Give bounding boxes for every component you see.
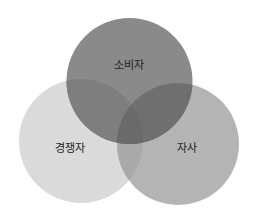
label-competitor: 경쟁자 — [55, 142, 85, 155]
label-company: 자사 — [177, 142, 197, 155]
label-consumer: 소비자 — [114, 59, 144, 72]
venn-diagram: 소비자 경쟁자 자사 — [0, 0, 257, 218]
